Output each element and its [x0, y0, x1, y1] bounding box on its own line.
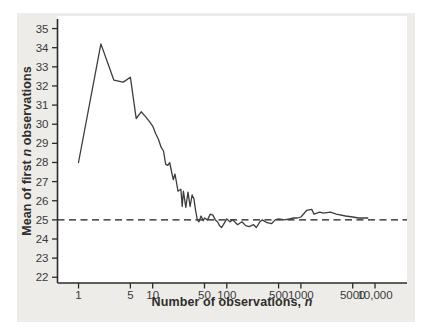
- y-tick-label: 27: [36, 176, 49, 188]
- y-tick-label: 33: [36, 61, 49, 73]
- x-axis-title-n: n: [305, 295, 313, 309]
- y-axis-title-text: Mean of first: [20, 157, 34, 236]
- y-tick-label: 30: [36, 118, 49, 130]
- y-tick-label: 24: [36, 233, 49, 245]
- y-tick-label: 35: [36, 23, 49, 35]
- y-tick-label: 26: [36, 195, 49, 207]
- y-axis-title-suffix: observations: [20, 66, 34, 149]
- x-axis-title-text: Number of observations,: [152, 295, 305, 309]
- y-tick-label: 25: [36, 214, 49, 226]
- y-axis-title: Mean of first n observations: [20, 66, 34, 236]
- y-tick-label: 32: [36, 80, 49, 92]
- chart-svg: 2223242526272829303132333435151050100500…: [0, 0, 431, 335]
- plot-area: [58, 16, 408, 283]
- y-tick-label: 29: [36, 137, 49, 149]
- y-axis-title-n: n: [20, 149, 34, 157]
- y-tick-label: 23: [36, 252, 49, 264]
- y-tick-label: 22: [36, 271, 49, 283]
- y-tick-label: 28: [36, 156, 49, 168]
- y-tick-label: 31: [36, 99, 49, 111]
- y-tick-label: 34: [36, 42, 49, 54]
- x-axis-title: Number of observations, n: [57, 295, 407, 309]
